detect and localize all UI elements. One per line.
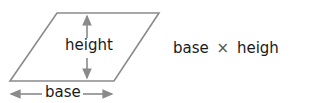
area-formula: base × height	[173, 41, 278, 56]
formula-base: base	[173, 39, 209, 57]
base-label: base	[43, 85, 83, 100]
times-operator-icon: ×	[214, 39, 233, 57]
height-label: height	[64, 38, 114, 53]
formula-height: height	[237, 39, 278, 57]
